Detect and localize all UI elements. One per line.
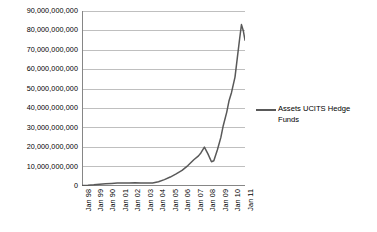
x-axis-tick-label: Jan 04 bbox=[159, 189, 167, 211]
y-axis-tick-label: 40,000,000,000 bbox=[0, 104, 78, 112]
y-axis-tick-labels: 90,000,000,000 80,000,000,000 70,000,000… bbox=[0, 0, 78, 232]
chart-legend: Assets UCITS Hedge Funds bbox=[256, 104, 374, 125]
legend-item-label: Assets UCITS Hedge Funds bbox=[278, 104, 370, 125]
y-axis-tick-label: 90,000,000,000 bbox=[0, 7, 78, 15]
x-axis-tick-label: Jan 10 bbox=[234, 189, 242, 211]
legend-item: Assets UCITS Hedge Funds bbox=[256, 104, 374, 125]
x-axis-tick-label: Jan 11 bbox=[247, 189, 255, 211]
x-axis-tick-label: Jan 08 bbox=[209, 189, 217, 211]
y-axis-tick-label: 0 bbox=[0, 182, 78, 190]
plot-svg bbox=[82, 11, 245, 186]
y-axis-tick-label: 80,000,000,000 bbox=[0, 26, 78, 34]
y-axis-tick-label: 20,000,000,000 bbox=[0, 143, 78, 151]
x-axis-tick-label: Jan 01 bbox=[122, 189, 130, 211]
x-axis-tick-label: Jan 90 bbox=[109, 189, 117, 211]
data-series-line bbox=[82, 25, 245, 186]
y-axis-tick-label: 50,000,000,000 bbox=[0, 85, 78, 93]
x-axis-tick-label: Jan 07 bbox=[197, 189, 205, 211]
x-axis-tick-label: Jan 03 bbox=[147, 189, 155, 211]
x-axis-tick-label: Jan 06 bbox=[184, 189, 192, 211]
x-axis-tick-label: Jan 99 bbox=[97, 189, 105, 211]
legend-line-swatch-icon bbox=[256, 106, 276, 114]
y-axis-tick-label: 30,000,000,000 bbox=[0, 124, 78, 132]
x-axis-tick-labels: Jan 98 Jan 99 Jan 90 Jan 01 Jan 02 Jan 0… bbox=[82, 189, 245, 232]
x-axis-tick-label: Jan 98 bbox=[85, 189, 93, 211]
y-axis-tick-label: 10,000,000,000 bbox=[0, 163, 78, 171]
x-axis-tick-label: Jan 09 bbox=[222, 189, 230, 211]
y-axis-tick-label: 70,000,000,000 bbox=[0, 46, 78, 54]
gridlines bbox=[82, 12, 245, 167]
y-axis-tick-label: 60,000,000,000 bbox=[0, 65, 78, 73]
x-axis-tick-label: Jan 02 bbox=[134, 189, 142, 211]
chart-container: 90,000,000,000 80,000,000,000 70,000,000… bbox=[0, 0, 377, 232]
x-axis-tick-label: Jan 05 bbox=[172, 189, 180, 211]
axis-lines bbox=[82, 11, 245, 186]
plot-area bbox=[82, 11, 245, 186]
